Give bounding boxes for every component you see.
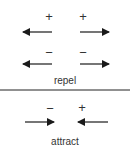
attract-label: attract (0, 136, 130, 147)
charge-label: + (45, 9, 53, 24)
charge-label: + (78, 100, 86, 115)
charge-label: − (45, 45, 53, 60)
charge-label: + (79, 9, 87, 24)
charge-label: − (46, 101, 54, 116)
charge-label: − (79, 45, 87, 60)
repel-label: repel (0, 75, 130, 86)
